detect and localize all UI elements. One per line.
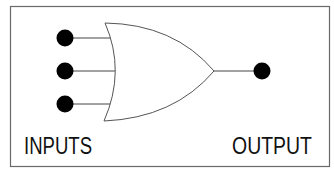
input-terminal-1 [57, 30, 74, 47]
inputs-label: INPUTS [24, 133, 92, 159]
or-gate-diagram: INPUTS OUTPUT [0, 0, 334, 174]
input-terminals [57, 30, 74, 113]
output-label: OUTPUT [232, 133, 312, 159]
input-terminal-3 [57, 96, 74, 113]
input-terminal-2 [57, 63, 74, 80]
or-gate-symbol [104, 23, 214, 121]
output-terminal [254, 63, 271, 80]
